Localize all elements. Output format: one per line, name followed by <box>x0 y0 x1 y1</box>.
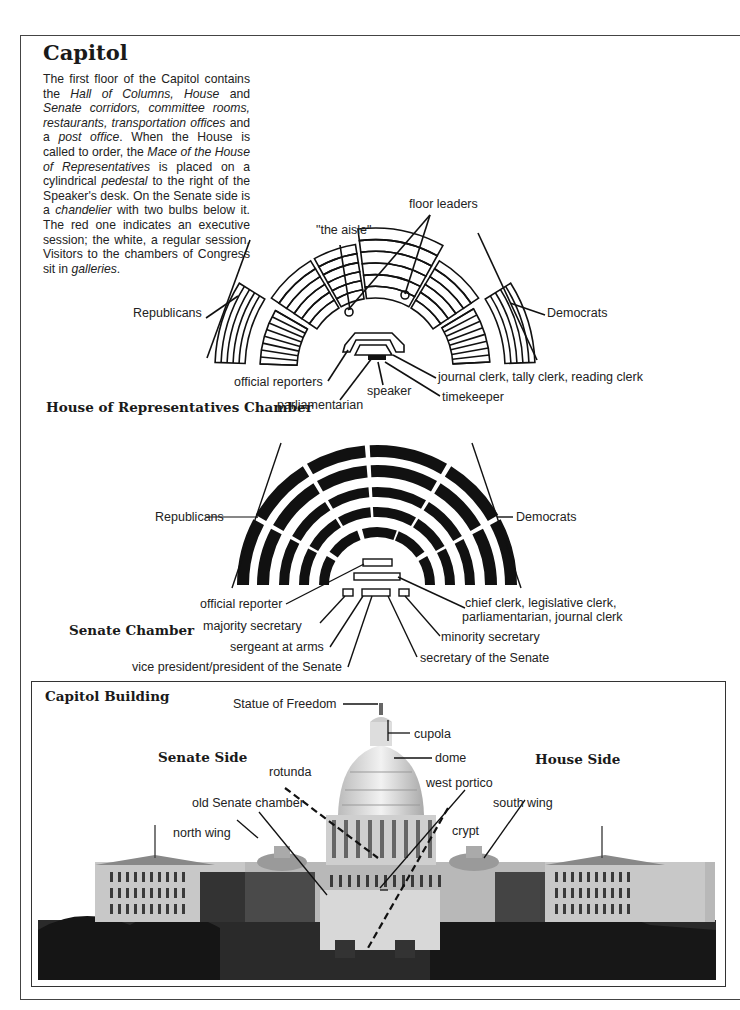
label-old-senate-chamber: old Senate chamber <box>192 796 304 810</box>
label-rotunda: rotunda <box>269 765 311 779</box>
label-west-portico: west portico <box>426 776 493 790</box>
label-dome: dome <box>435 751 466 765</box>
label-statue-of-freedom: Statue of Freedom <box>233 697 337 711</box>
label-crypt: crypt <box>452 824 479 838</box>
label-south-wing: south wing <box>493 796 553 810</box>
label-north-wing: north wing <box>173 826 231 840</box>
label-cupola: cupola <box>414 727 451 741</box>
